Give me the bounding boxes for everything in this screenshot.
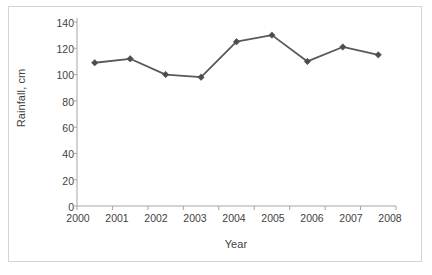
x-axis-title: Year (77, 238, 395, 250)
axis-lines (77, 18, 396, 206)
y-axis-ticks (73, 22, 77, 206)
data-point (162, 71, 168, 77)
data-point (92, 60, 98, 66)
data-point (340, 44, 346, 50)
data-point (375, 52, 381, 58)
x-axis-ticks (77, 206, 396, 210)
rainfall-line-chart: Rainfall, cm 140 120 100 80 60 40 20 0 2… (0, 0, 432, 275)
series-markers-rainfall (92, 32, 382, 80)
data-point (127, 56, 133, 62)
plot-area (0, 0, 432, 275)
